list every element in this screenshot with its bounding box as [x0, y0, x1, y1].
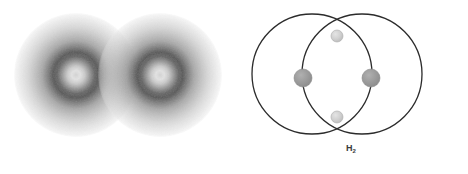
density-cloud-group — [14, 13, 222, 137]
nucleus-right — [362, 69, 380, 87]
nucleus-left — [294, 69, 312, 87]
orbital-overlap-schematic-panel: H2 — [234, 0, 468, 174]
electron-density-svg — [0, 0, 234, 174]
electron-density-cloud-panel — [0, 0, 234, 174]
formula-element-symbol: H — [346, 143, 353, 153]
formula-subscript: 2 — [353, 148, 357, 154]
shared-electron-top — [331, 30, 343, 42]
shared-electron-bottom — [331, 111, 343, 123]
molecule-formula-label: H2 — [234, 144, 468, 153]
electron-cloud-right — [98, 13, 222, 137]
h2-molecule-figure: H2 — [0, 0, 468, 174]
